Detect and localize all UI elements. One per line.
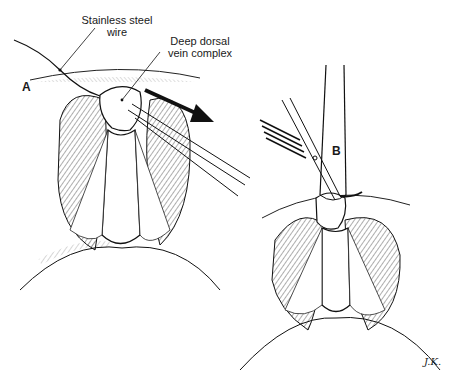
callout-deep-dorsal-vein-complex: Deep dorsal vein complex bbox=[150, 35, 250, 59]
callout-line: Stainless steel bbox=[62, 14, 172, 26]
panel-a-drawing bbox=[14, 28, 250, 290]
panel-label-b: B bbox=[332, 144, 341, 158]
panel-label-a: A bbox=[22, 80, 31, 94]
callout-line: vein complex bbox=[150, 47, 250, 59]
callout-line: Deep dorsal bbox=[150, 35, 250, 47]
artist-signature: J.K. bbox=[424, 356, 441, 367]
panel-b-drawing bbox=[240, 65, 440, 370]
